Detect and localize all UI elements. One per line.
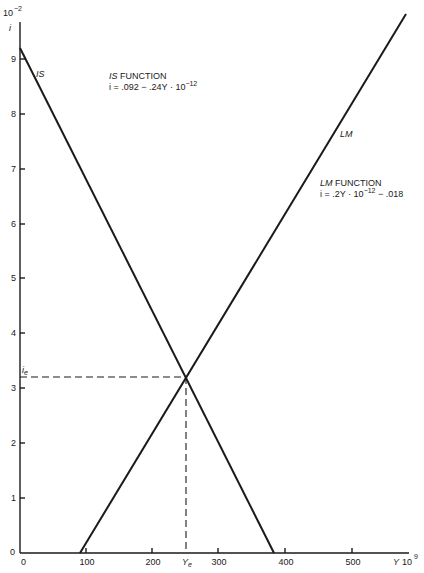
x-tick-label: 500 — [345, 557, 360, 567]
y-zero-label: 0 — [10, 547, 15, 557]
x-tick-label: 300 — [211, 557, 226, 567]
y-tick-label: 5 — [11, 273, 16, 283]
y-tick-label: 4 — [11, 328, 16, 338]
x-tick-label: 400 — [278, 557, 293, 567]
lm-function-annotation: LM FUNCTION i = .2Y · 10−12 − .018 — [320, 178, 403, 199]
x-tick-label: 200 — [145, 557, 160, 567]
svg-text:10: 10 — [3, 8, 13, 18]
y-tick-label: 8 — [11, 109, 16, 119]
y-tick-labels: 1 2 3 4 5 6 7 8 9 0 — [10, 54, 16, 557]
is-function-annotation: IS FUNCTION i = .092 − .24Y · 10−12 — [109, 71, 197, 92]
svg-text:i = .092 − .24Y · 10−12: i = .092 − .24Y · 10−12 — [109, 80, 197, 92]
x-zero-label: 0 — [21, 557, 26, 567]
y-ticks — [20, 59, 25, 498]
is-curve-label: IS — [36, 69, 45, 79]
y-axis-var: i — [9, 23, 12, 33]
svg-text:−2: −2 — [14, 5, 22, 12]
lm-curve-label: LM — [340, 129, 353, 139]
svg-text:9: 9 — [414, 553, 418, 560]
is-lm-chart: 1 2 3 4 5 6 7 8 9 0 0 100 200 300 400 50… — [0, 0, 424, 573]
y-tick-label: 6 — [11, 219, 16, 229]
x-axis-unit-label: Y 10 9 — [393, 553, 418, 567]
svg-text:i = .2Y · 10−12 − .018: i = .2Y · 10−12 − .018 — [320, 187, 403, 199]
y-tick-label: 7 — [11, 164, 16, 174]
y-tick-label: 9 — [11, 54, 16, 64]
x-axis-var: Y — [393, 557, 400, 567]
y-tick-label: 3 — [11, 383, 16, 393]
x-tick-label: 100 — [79, 557, 94, 567]
ie-label: ie — [22, 365, 28, 376]
y-tick-label: 2 — [11, 438, 16, 448]
ye-label: Ye — [182, 557, 192, 568]
svg-text:IS FUNCTION: IS FUNCTION — [109, 71, 167, 81]
x-ticks — [86, 548, 352, 553]
lm-curve — [80, 14, 406, 553]
is-curve — [20, 48, 274, 553]
y-axis-unit-label: 10 −2 i — [3, 5, 22, 33]
svg-text:10: 10 — [402, 557, 412, 567]
y-tick-label: 1 — [11, 493, 16, 503]
